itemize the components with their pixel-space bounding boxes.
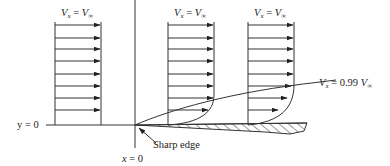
label-x-zero: x = 0 <box>121 153 143 164</box>
velocity-profile-2 <box>168 22 214 125</box>
boundary-layer-edge-curve <box>135 80 336 125</box>
label-profile3: Vx = V∞ <box>254 7 286 20</box>
velocity-profile-uniform <box>55 22 101 125</box>
label-sharp-edge: Sharp edge <box>153 139 200 150</box>
label-profile2: Vx = V∞ <box>174 7 206 20</box>
label-y-zero: y = 0 <box>17 119 39 130</box>
label-profile1: Vx = V∞ <box>61 7 93 20</box>
boundary-layer-diagram: Vx = V∞ Vx = V∞ Vx = V∞ Vx = 0.99 V∞ y =… <box>0 0 390 166</box>
velocity-profile-3 <box>248 22 294 125</box>
label-boundary-layer-edge: Vx = 0.99 V∞ <box>319 77 372 90</box>
